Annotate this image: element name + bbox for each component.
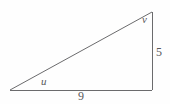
angle-label-u: u <box>41 76 47 87</box>
triangle-hypotenuse <box>10 12 152 90</box>
triangle-figure: u v 9 5 <box>0 0 170 104</box>
side-length-label-bottom: 9 <box>78 90 84 102</box>
side-length-label-right: 5 <box>156 46 162 58</box>
angle-label-v: v <box>142 14 147 25</box>
